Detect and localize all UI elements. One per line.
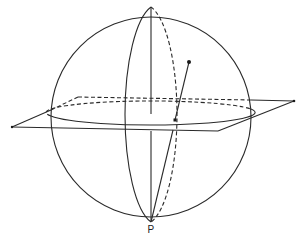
plane-back-edges (12, 97, 294, 127)
stereographic-projection-diagram: P (0, 0, 302, 240)
plane-front-edge (12, 127, 218, 131)
projection-line-upper (175, 62, 189, 120)
meridian-back-dashed (151, 7, 177, 222)
plane-right-vertex (293, 100, 296, 103)
point-on-sphere (187, 60, 191, 64)
meridian-front (125, 7, 151, 222)
projected-point (174, 119, 177, 122)
plane-back-edge (78, 97, 251, 100)
equator-front (51, 109, 255, 125)
projection-line-lower (151, 130, 173, 222)
plane-left-back-edge-outside (12, 110, 51, 127)
plane-right-front-edge (218, 101, 294, 131)
pole-label: P (148, 224, 155, 235)
plane-right-back-edge-outside (251, 100, 294, 101)
equator-back-dashed (46, 101, 251, 116)
plane-left-vertex (11, 126, 13, 128)
